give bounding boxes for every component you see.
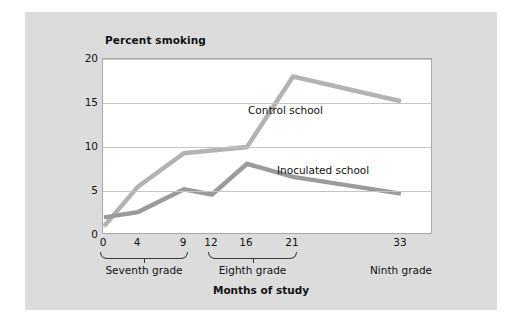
- grade-bracket-stem: [144, 259, 145, 263]
- x-tick-label-4: 4: [134, 236, 141, 248]
- gridline-5: [103, 191, 431, 192]
- x-axis: 04912162133: [102, 236, 432, 252]
- series-label-control-school: Control school: [248, 104, 323, 116]
- x-tick-label-0: 0: [100, 236, 107, 248]
- chart-title: Percent smoking: [105, 34, 206, 46]
- grade-bracket-shape: [100, 252, 188, 259]
- y-tick-label-20: 20: [85, 52, 98, 64]
- x-tick-label-9: 9: [180, 236, 187, 248]
- x-tick-label-33: 33: [393, 236, 406, 248]
- grade-bracket-shape: [208, 252, 297, 259]
- grade-label-ninth-grade: Ninth grade: [370, 264, 432, 276]
- x-tick-label-12: 12: [204, 236, 217, 248]
- grade-bracket-stem: [253, 259, 254, 263]
- series-label-inoculated-school: Inoculated school: [277, 164, 369, 176]
- grade-label-eighth-grade: Eighth grade: [219, 264, 287, 276]
- gridline-10: [103, 147, 431, 148]
- y-tick-label-0: 0: [91, 228, 98, 240]
- figure-card: Percent smoking 05101520 04912162133 Sev…: [25, 12, 497, 310]
- y-tick-label-10: 10: [85, 140, 98, 152]
- plot-area: [102, 58, 432, 234]
- x-tick-label-16: 16: [239, 236, 252, 248]
- gridline-20: [103, 59, 431, 60]
- series-line-control-school: [104, 77, 401, 227]
- x-axis-title: Months of study: [25, 284, 497, 296]
- grade-label-seventh-grade: Seventh grade: [105, 264, 182, 276]
- y-tick-label-15: 15: [85, 96, 98, 108]
- y-axis: 05101520: [73, 58, 98, 234]
- x-tick-label-21: 21: [285, 236, 298, 248]
- y-tick-label-5: 5: [91, 184, 98, 196]
